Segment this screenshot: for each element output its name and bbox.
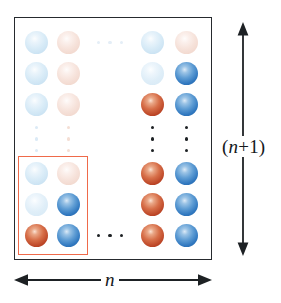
ellipsis-col4-vertical-dot — [185, 149, 188, 152]
ellipsis-row1-horizontal-dot — [120, 41, 123, 44]
ellipsis-row6-horizontal — [97, 233, 123, 238]
sphere-c4-r6 — [175, 224, 198, 247]
ellipsis-row1-horizontal-dot — [108, 41, 111, 44]
sphere-c1-r2 — [25, 62, 48, 85]
sphere-c2-r2 — [57, 62, 80, 85]
sphere-c1-r3 — [25, 93, 48, 116]
sphere-c3-r4 — [141, 162, 164, 185]
horizontal-label-variable: n — [105, 269, 115, 290]
ellipsis-col2-vertical-dot — [67, 149, 70, 152]
ellipsis-col1-vertical-dot — [35, 137, 38, 140]
vertical-label-variable: n — [229, 136, 239, 157]
horizontal-dimension-label: n — [101, 270, 119, 289]
highlight-selection-rectangle — [18, 156, 88, 255]
ellipsis-col2-vertical-dot — [67, 126, 70, 129]
sphere-c3-r1 — [141, 31, 164, 54]
ellipsis-col2-vertical — [66, 126, 71, 152]
sphere-c4-r5 — [175, 193, 198, 216]
sphere-c3-r6 — [141, 224, 164, 247]
ellipsis-row6-horizontal-dot — [97, 234, 100, 237]
ellipsis-col4-vertical-dot — [185, 126, 188, 129]
sphere-c2-r3 — [57, 93, 80, 116]
ellipsis-row6-horizontal-dot — [120, 234, 123, 237]
ellipsis-row6-horizontal-dot — [108, 234, 111, 237]
ellipsis-col1-vertical-dot — [35, 149, 38, 152]
ellipsis-col3-vertical-dot — [151, 137, 154, 140]
vertical-dimension-label: (n+1) — [218, 137, 269, 156]
sphere-c1-r1 — [25, 31, 48, 54]
ellipsis-col3-vertical-dot — [151, 149, 154, 152]
ellipsis-col3-vertical — [150, 126, 155, 152]
ellipsis-col3-vertical-dot — [151, 126, 154, 129]
matrix-diagram: (n+1) n — [0, 0, 281, 303]
ellipsis-col1-vertical — [34, 126, 39, 152]
sphere-c2-r1 — [57, 31, 80, 54]
sphere-c4-r1 — [175, 31, 198, 54]
ellipsis-col2-vertical-dot — [67, 137, 70, 140]
sphere-c3-r3 — [141, 93, 164, 116]
sphere-c3-r2 — [141, 62, 164, 85]
ellipsis-col4-vertical-dot — [185, 137, 188, 140]
sphere-c3-r5 — [141, 193, 164, 216]
ellipsis-row1-horizontal — [97, 40, 123, 45]
sphere-c4-r2 — [175, 62, 198, 85]
ellipsis-col1-vertical-dot — [35, 126, 38, 129]
sphere-c4-r3 — [175, 93, 198, 116]
ellipsis-row1-horizontal-dot — [97, 41, 100, 44]
sphere-c4-r4 — [175, 162, 198, 185]
vertical-label-suffix: +1) — [238, 136, 265, 157]
ellipsis-col4-vertical — [184, 126, 189, 152]
